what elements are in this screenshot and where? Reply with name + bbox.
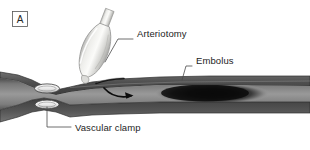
panel-label-letter: A (17, 14, 24, 25)
label-vascular-clamp: Vascular clamp (75, 122, 141, 133)
embolus-mass (154, 83, 270, 105)
label-arteriotomy: Arteriotomy (137, 28, 187, 39)
label-embolus: Embolus (196, 55, 234, 66)
illustration-canvas: Arteriotomy Embolus Vascular clamp A (0, 0, 310, 150)
figure-container: Arteriotomy Embolus Vascular clamp A (0, 0, 310, 150)
panel-label: A (13, 12, 28, 27)
artery-vessel (0, 72, 310, 122)
balloon-catheter (70, 5, 123, 87)
catheter-balloon (72, 20, 117, 82)
